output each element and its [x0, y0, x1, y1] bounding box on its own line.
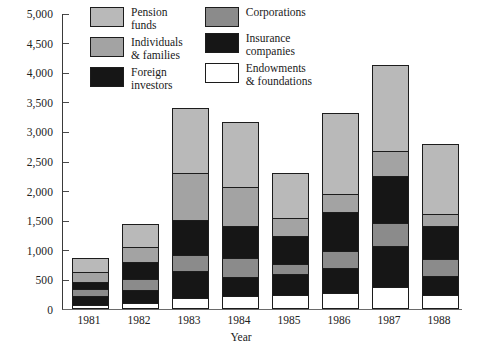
bar-segment: [373, 246, 408, 287]
bar-segment: [123, 247, 158, 262]
y-axis-tick-label: 2,000: [0, 186, 62, 198]
bar-segment: [123, 279, 158, 290]
legend-label: Corporations: [246, 6, 306, 19]
bar-segment: [73, 282, 108, 289]
bar-segment: [373, 223, 408, 246]
legend-swatch-insurance-companies: [205, 33, 239, 53]
bar-segment: [73, 289, 108, 296]
legend-item: Foreign investors: [90, 66, 183, 91]
y-axis-tick-label: 3,000: [0, 126, 62, 138]
bar-segment: [173, 255, 208, 271]
y-axis-tick-text: 3,500: [27, 97, 62, 109]
bar-segment: [273, 264, 308, 274]
legend-column-2: CorporationsInsurance companiesEndowment…: [205, 6, 312, 91]
bar-segment: [423, 259, 458, 276]
bar-segment: [123, 262, 158, 279]
y-axis-tick-label: 5,000: [0, 8, 62, 20]
bar-segment: [423, 145, 458, 214]
bar-segment: [323, 114, 358, 194]
y-axis-tick-text: 4,500: [27, 38, 62, 50]
y-axis-tick-text: 2,000: [27, 186, 62, 198]
bar-segment: [323, 293, 358, 308]
y-axis-tick-text: 3,000: [27, 126, 62, 138]
bar-segment: [423, 214, 458, 226]
bar-1982: [122, 224, 159, 309]
chart-legend: Pension fundsIndividuals & familiesForei…: [90, 6, 380, 91]
bar-segment: [73, 296, 108, 305]
bar-segment: [173, 298, 208, 308]
bar-segment: [373, 151, 408, 176]
bar-segment: [73, 259, 108, 272]
bar-1984: [222, 122, 259, 309]
bar-segment: [273, 295, 308, 308]
bar-segment: [323, 268, 358, 293]
y-axis-tick-text: 4,000: [27, 67, 62, 79]
legend-swatch-individuals-families: [90, 37, 124, 57]
legend-label: Endowments & foundations: [246, 62, 312, 87]
y-axis-tick-label: 4,000: [0, 67, 62, 79]
y-axis-tick-label: 1,500: [0, 215, 62, 227]
stacked-bar-chart: 05001,0001,5002,0002,5003,0003,5004,0004…: [0, 0, 482, 361]
legend-item: Pension funds: [90, 6, 183, 31]
bar-segment: [373, 287, 408, 308]
legend-item: Corporations: [205, 6, 312, 27]
bar-segment: [423, 226, 458, 259]
bar-segment: [273, 174, 308, 217]
bar-segment: [223, 277, 258, 296]
bar-segment: [123, 303, 158, 308]
bar-1988: [422, 144, 459, 309]
legend-swatch-pension-funds: [90, 7, 124, 27]
x-axis-title: Year: [0, 331, 482, 343]
x-axis-label-1988: 1988: [409, 314, 469, 326]
bar-segment: [273, 274, 308, 294]
bar-1985: [272, 173, 309, 309]
y-axis-tick-label: 1,000: [0, 245, 62, 257]
bar-segment: [273, 236, 308, 264]
legend-label: Pension funds: [131, 6, 167, 31]
bar-segment: [123, 290, 158, 303]
bar-1981: [72, 258, 109, 309]
y-axis-tick-text: 500: [35, 274, 62, 286]
bar-segment: [223, 258, 258, 277]
bar-segment: [273, 218, 308, 236]
bar-1986: [322, 113, 359, 309]
bar-segment: [223, 226, 258, 258]
bar-segment: [73, 305, 108, 308]
bar-segment: [323, 194, 358, 213]
legend-item: Endowments & foundations: [205, 62, 312, 87]
y-axis-tick-label: 500: [0, 274, 62, 286]
y-axis-tick-text: 1,000: [27, 245, 62, 257]
legend-swatch-foreign-investors: [90, 67, 124, 87]
legend-item: Individuals & families: [90, 36, 183, 61]
bar-segment: [123, 225, 158, 248]
bar-segment: [173, 220, 208, 255]
bar-segment: [173, 271, 208, 298]
bar-segment: [323, 251, 358, 268]
bar-segment: [223, 187, 258, 226]
legend-swatch-endowments-foundations: [205, 63, 239, 83]
legend-item: Insurance companies: [205, 32, 312, 57]
legend-label: Individuals & families: [131, 36, 183, 61]
y-axis-tick-label: 0: [0, 304, 62, 316]
bar-segment: [323, 212, 358, 251]
bar-segment: [223, 296, 258, 308]
y-axis-tick-text: 5,000: [27, 8, 62, 20]
legend-column-1: Pension fundsIndividuals & familiesForei…: [90, 6, 183, 91]
bar-segment: [423, 276, 458, 295]
y-axis-tick-text: 2,500: [27, 156, 62, 168]
legend-label: Foreign investors: [131, 66, 173, 91]
bar-1983: [172, 108, 209, 309]
bar-segment: [173, 173, 208, 220]
bar-segment: [423, 295, 458, 308]
y-axis-tick-label: 2,500: [0, 156, 62, 168]
legend-label: Insurance companies: [246, 32, 295, 57]
bar-segment: [73, 272, 108, 282]
bar-segment: [223, 123, 258, 187]
bar-segment: [373, 176, 408, 223]
bar-1987: [372, 65, 409, 309]
y-axis-tick-label: 3,500: [0, 97, 62, 109]
legend-swatch-corporations: [205, 7, 239, 27]
y-axis-tick-label: 4,500: [0, 38, 62, 50]
bar-segment: [173, 109, 208, 173]
y-axis-tick-text: 1,500: [27, 215, 62, 227]
